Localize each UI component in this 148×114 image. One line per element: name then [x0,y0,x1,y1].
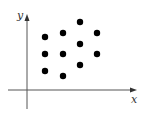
data-point [42,34,48,40]
x-axis-label: x [131,93,138,106]
scatter-chart-svg: y x [0,0,148,114]
y-axis-label: y [16,9,24,22]
axes: y x [8,9,138,109]
data-point [77,62,83,68]
data-point [77,19,83,25]
y-axis-arrow-icon [25,14,30,21]
data-point [42,51,48,57]
data-point [60,73,66,79]
data-point [42,68,48,74]
data-points [42,19,100,79]
data-point [60,51,66,57]
data-point [60,30,66,36]
data-point [77,41,83,47]
data-point [94,51,100,57]
scatter-plot: y x [0,0,148,114]
data-point [94,30,100,36]
x-axis-arrow-icon [130,88,137,93]
